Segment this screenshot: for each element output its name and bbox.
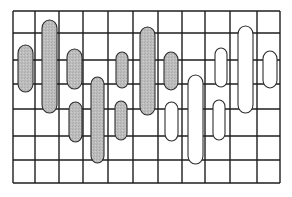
grid-blob-diagram: [0, 0, 292, 197]
gray-blob: [42, 20, 57, 113]
white-blob: [238, 26, 253, 113]
gray-blob: [115, 101, 127, 140]
white-blob: [263, 51, 277, 88]
gray-blob: [69, 102, 82, 142]
gray-blob: [140, 27, 155, 115]
white-blob: [213, 100, 225, 140]
gray-blob: [116, 52, 128, 88]
white-blob: [215, 48, 227, 87]
gray-blob: [91, 77, 104, 163]
diagram-canvas: [0, 0, 292, 197]
gray-blob: [164, 52, 178, 90]
white-blob: [188, 75, 203, 164]
gray-blob: [18, 45, 33, 92]
white-blob: [165, 102, 178, 141]
gray-blob: [67, 49, 82, 89]
